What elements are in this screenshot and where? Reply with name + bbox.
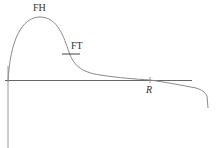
diagram-canvas xyxy=(0,0,216,148)
label-fh: FH xyxy=(33,3,46,13)
response-curve xyxy=(8,17,208,108)
label-ft: FT xyxy=(71,41,83,51)
label-r: R xyxy=(146,85,152,95)
